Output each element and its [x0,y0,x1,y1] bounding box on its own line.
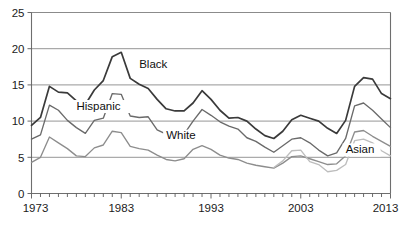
x-tick-label-2013: 2013 [373,202,399,214]
x-tick-label-1993: 1993 [198,202,224,214]
series-label-hispanic: Hispanic [76,100,120,112]
y-tick-label-20: 20 [12,43,25,55]
y-tick-label-15: 15 [12,79,25,91]
series-label-black: Black [139,58,167,70]
y-tick-label-10: 10 [12,115,25,127]
series-label-white: White [166,129,195,141]
series-label-asian: Asian [346,143,375,155]
series-line-white [32,131,391,169]
x-tick-label-2003: 2003 [288,202,314,214]
unemployment-rate-line-chart: 051015202519731983199320032013BlackHispa… [0,0,402,228]
x-tick-label-1973: 1973 [23,202,49,214]
x-tick-label-1983: 1983 [108,202,134,214]
y-tick-label-5: 5 [18,152,24,164]
chart-canvas: 051015202519731983199320032013BlackHispa… [0,0,402,228]
y-tick-label-25: 25 [12,7,25,19]
series-line-black [32,52,391,138]
y-tick-label-0: 0 [18,188,24,200]
